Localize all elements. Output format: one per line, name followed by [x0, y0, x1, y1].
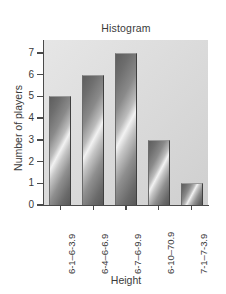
- histogram-bar: [181, 183, 203, 205]
- y-axis-line: [43, 40, 44, 206]
- y-tick-mark: [37, 117, 43, 118]
- histogram-bar: [82, 75, 104, 205]
- y-tick-mark: [37, 161, 43, 162]
- x-category-label: 6-7–6-9.9: [131, 212, 144, 274]
- y-tick-mark: [37, 74, 43, 75]
- x-tick-mark: [191, 205, 192, 210]
- x-tick-mark: [60, 205, 61, 210]
- x-category-label: 6-1–6-3.9: [65, 212, 78, 274]
- y-tick-mark: [37, 52, 43, 53]
- histogram-figure: Histogram 01234567 6-1–6-3.96-4–6-6.96-7…: [0, 0, 226, 294]
- x-tick-mark: [158, 205, 159, 210]
- y-axis-title: Number of players: [12, 58, 24, 198]
- histogram-bar: [49, 96, 71, 205]
- x-tick-mark: [125, 205, 126, 210]
- x-tick-mark: [93, 205, 94, 210]
- histogram-bar: [115, 53, 137, 205]
- y-tick-mark: [37, 204, 43, 205]
- chart-title: Histogram: [44, 22, 208, 34]
- x-category-label: 7-1–7-3.9: [197, 212, 210, 274]
- x-category-label: 6-10–70.9: [164, 212, 177, 274]
- x-axis-title: Height: [44, 274, 208, 286]
- y-tick-label: 7: [8, 48, 34, 58]
- y-tick-mark: [37, 183, 43, 184]
- y-tick-mark: [37, 96, 43, 97]
- histogram-bar: [148, 140, 170, 205]
- y-tick-label: 0: [8, 200, 34, 210]
- y-tick-mark: [37, 139, 43, 140]
- x-category-label: 6-4–6-6.9: [98, 212, 111, 274]
